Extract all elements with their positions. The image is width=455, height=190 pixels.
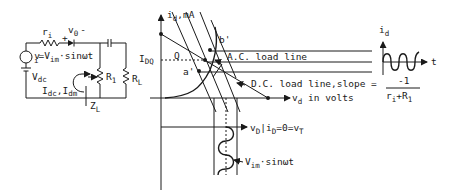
vdc-label: Vdc [32,71,47,84]
currents-label: Idc,Idm [42,85,78,98]
circuit-schematic: ri + v0- vi=Vim·sinωt Vdc Idc,Idm R1 RL … [20,24,143,114]
ac-source-icon [20,51,32,63]
diode-icon [68,40,74,47]
capacitor-icon [108,39,111,47]
rl-label: RL [132,73,143,87]
output-waveform: id t [379,24,437,75]
b-prime-point [208,48,212,52]
ac-load-line-label: A.C. load line [227,51,307,62]
dc-load-line-label: D.C. load line,slope = [251,78,377,89]
vt-label: vD|iD=0=vT [250,122,304,136]
resistor-rl-icon [123,68,129,98]
diode-circuit-diagram: ri + v0- vi=Vim·sinωt Vdc Idc,Idm R1 RL … [0,0,455,190]
waveform-id-label: id [379,24,389,38]
q-label: Q [174,50,180,61]
a-prime-label: a' [183,66,194,77]
zl-label: ZL [90,100,101,114]
vim-sine-label: Vim·sinωt [245,156,294,170]
slope-numerator: -1 [398,75,410,86]
waveform-t-label: t [431,56,437,67]
id-axis-label: id,mA [167,9,195,23]
a-prime-point [197,69,201,73]
wire [26,43,40,45]
svg-text:ri: ri [42,26,52,40]
b-prime-label: b' [219,34,230,45]
slope-denominator: ri+R1 [386,90,412,104]
diode-characteristic-graph: id,mA IDQ Q a' b' A.C. load line D.C. lo… [139,9,420,190]
vd-axis-label: vd in volts [292,92,354,106]
resistor-r1-icon [97,68,103,98]
svg-text:v0-: v0- [68,24,86,38]
r1-label: R1 [106,71,116,85]
q-point [203,58,207,62]
idq-label: IDQ [139,53,154,66]
battery-icon [21,68,31,71]
output-sine-wave [383,52,419,70]
vi-label: vi=Vim·sinωt [34,50,93,65]
